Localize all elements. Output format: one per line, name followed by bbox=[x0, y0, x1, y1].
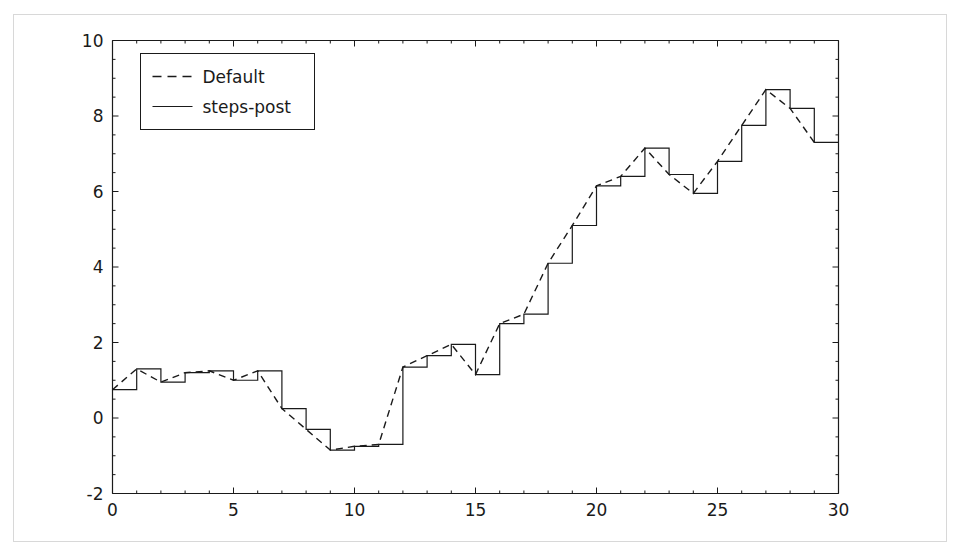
x-tick-label: 15 bbox=[465, 500, 487, 520]
x-tick-label: 20 bbox=[586, 500, 608, 520]
legend-label-0: Default bbox=[203, 67, 265, 87]
y-tick-label: 10 bbox=[82, 31, 104, 51]
x-tick-label: 5 bbox=[228, 500, 239, 520]
figure-canvas: 051015202530 -20246810 Defaultsteps-post bbox=[0, 0, 961, 557]
x-tick-label: 10 bbox=[344, 500, 366, 520]
series-line-default bbox=[113, 90, 815, 451]
plot-area: 051015202530 -20246810 Defaultsteps-post bbox=[0, 0, 961, 557]
legend: Defaultsteps-post bbox=[141, 54, 315, 130]
y-axis-tick-labels: -20246810 bbox=[82, 31, 104, 504]
x-tick-label: 0 bbox=[107, 500, 118, 520]
x-axis-tick-labels: 051015202530 bbox=[107, 500, 849, 520]
x-tick-label: 30 bbox=[828, 500, 850, 520]
y-tick-label: 6 bbox=[93, 182, 104, 202]
y-tick-label: 8 bbox=[93, 106, 104, 126]
y-tick-label: 2 bbox=[93, 333, 104, 353]
y-tick-label: 4 bbox=[93, 257, 104, 277]
y-tick-label: 0 bbox=[93, 408, 104, 428]
legend-box bbox=[141, 54, 315, 130]
x-tick-label: 25 bbox=[707, 500, 729, 520]
legend-label-1: steps-post bbox=[203, 97, 292, 117]
y-tick-label: -2 bbox=[87, 484, 104, 504]
data-series-group bbox=[113, 90, 839, 451]
